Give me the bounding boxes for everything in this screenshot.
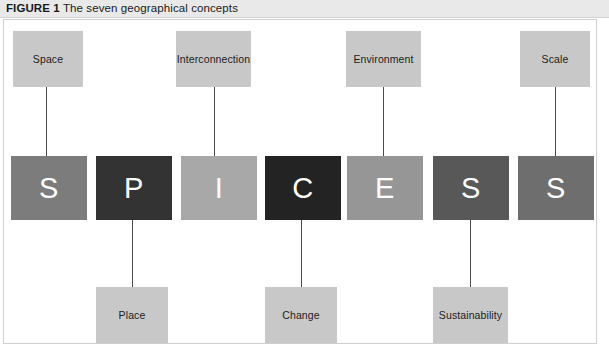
- acronym-letter-box-p: P: [96, 156, 172, 220]
- diagram-frame: Space Interconnection Environment Scale …: [3, 19, 597, 344]
- connector-environment: [383, 87, 384, 156]
- acronym-letter-box-c: C: [265, 156, 341, 220]
- acronym-letter-box-e: E: [347, 156, 423, 220]
- concept-label-sustainability: Sustainability: [433, 287, 508, 343]
- connector-interconnection: [214, 87, 215, 156]
- connector-place: [132, 220, 133, 288]
- figure-number-label: FIGURE 1: [6, 2, 60, 14]
- connector-scale: [555, 87, 556, 156]
- acronym-letter-box-i: I: [181, 156, 257, 220]
- acronym-letter-box-s2: S: [433, 156, 509, 220]
- concept-label-space: Space: [13, 31, 83, 87]
- connector-change: [301, 220, 302, 288]
- acronym-letter-box-s3: S: [518, 156, 594, 220]
- acronym-letter-box-s1: S: [11, 156, 87, 220]
- concept-label-environment: Environment: [346, 31, 421, 87]
- concept-label-place: Place: [96, 287, 168, 343]
- concept-label-change: Change: [265, 287, 337, 343]
- concept-label-interconnection: Interconnection: [176, 31, 251, 87]
- concept-label-scale: Scale: [520, 31, 590, 87]
- figure-caption-text: FIGURE 1 The seven geographical concepts: [6, 2, 238, 14]
- connector-sustainability: [470, 220, 471, 288]
- figure-caption-bar: FIGURE 1 The seven geographical concepts: [0, 0, 609, 18]
- connector-space: [46, 87, 47, 156]
- figure-title-label: The seven geographical concepts: [63, 2, 238, 14]
